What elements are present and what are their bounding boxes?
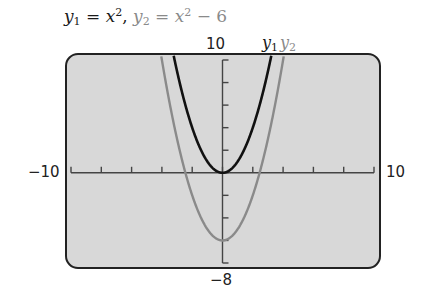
graph-window	[0, 0, 425, 308]
